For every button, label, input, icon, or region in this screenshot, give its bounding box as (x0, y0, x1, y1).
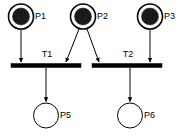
place-label-p3: P3 (164, 11, 175, 21)
place-label-p1: P1 (35, 11, 46, 21)
arc-p2-to-t2 (87, 29, 99, 62)
place-label-p5: P5 (60, 110, 71, 120)
transition-label-t1: T1 (42, 49, 53, 59)
place-label-p2: P2 (97, 11, 108, 21)
place-p1[interactable]: P1 (9, 4, 47, 29)
token-p2 (75, 8, 92, 25)
place-p5[interactable]: P5 (34, 103, 72, 128)
token-p1 (13, 8, 30, 25)
place-label-p6: P6 (144, 110, 155, 120)
place-p2[interactable]: P2 (71, 4, 109, 29)
transition-bar-t2 (92, 64, 162, 68)
place-p3[interactable]: P3 (138, 4, 176, 29)
petri-net-diagram: T1T2 P1P2P3P5P6 (0, 0, 184, 136)
transition-label-t2: T2 (123, 49, 134, 59)
place-p6[interactable]: P6 (118, 103, 156, 128)
place-circle-p5 (34, 103, 59, 128)
transition-t2[interactable]: T2 (92, 49, 162, 67)
place-circle-p6 (118, 103, 143, 128)
token-p3 (142, 8, 159, 25)
petri-net-canvas: T1T2 P1P2P3P5P6 (0, 0, 184, 136)
transitions-layer: T1T2 (11, 49, 162, 67)
arc-p2-to-t1 (66, 29, 79, 62)
transition-bar-t1 (11, 64, 81, 68)
